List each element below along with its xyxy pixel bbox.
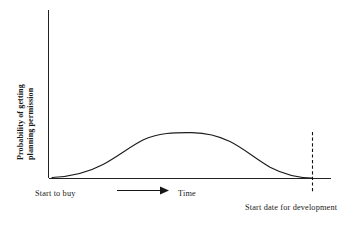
figure-container: Probability of getting planning permissi…: [0, 0, 364, 227]
probability-planning-permission-chart: Probability of getting planning permissi…: [0, 0, 364, 227]
probability-curve: [52, 133, 312, 178]
y-axis-label-line1: Probability of getting: [16, 84, 25, 160]
y-axis-label-line2: planning permission: [26, 87, 35, 160]
time-direction-arrow: [117, 187, 169, 195]
start-to-buy-label: Start to buy: [35, 189, 76, 198]
time-arrow-head: [160, 187, 169, 195]
development-start-label: Start date for development: [245, 203, 338, 212]
x-axis-label: Time: [178, 189, 196, 198]
